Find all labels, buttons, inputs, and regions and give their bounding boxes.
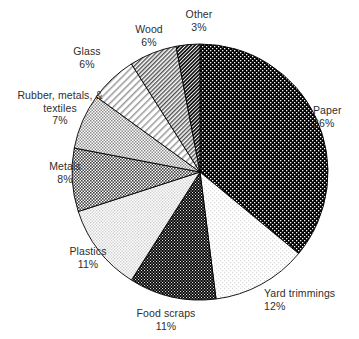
slice-label-metals: Metals 8% [41, 160, 89, 185]
slice-label-metals-pct: 8% [41, 173, 89, 186]
slice-label-rubber-metals-textiles: Rubber, metals, & textiles 7% [8, 89, 112, 127]
slice-label-paper: Paper 36% [313, 104, 342, 129]
slice-label-paper-name: Paper [313, 104, 342, 117]
slice-label-rubber-metals-textiles-name: Rubber, metals, & [8, 89, 112, 102]
slice-label-yard-trimmings-name: Yard trimmings [264, 287, 335, 300]
slice-label-metals-name: Metals [41, 160, 89, 173]
slice-label-food-scraps: Food scraps 11% [130, 307, 202, 332]
slice-label-plastics: Plastics 11% [63, 245, 113, 270]
slice-label-yard-trimmings: Yard trimmings 12% [264, 287, 335, 312]
slice-label-wood-name: Wood [126, 23, 172, 36]
slice-label-wood: Wood 6% [126, 23, 172, 48]
slice-label-plastics-pct: 11% [63, 258, 113, 271]
slice-label-rubber-metals-textiles-name2: textiles [8, 102, 112, 115]
slice-label-other: Other 3% [176, 8, 222, 33]
slice-label-food-scraps-name: Food scraps [130, 307, 202, 320]
pie-chart: Paper 36% Yard trimmings 12% Food scraps… [0, 0, 359, 339]
slice-label-glass: Glass 6% [64, 45, 110, 70]
slice-label-glass-pct: 6% [64, 58, 110, 71]
slice-label-other-pct: 3% [176, 21, 222, 34]
slice-label-food-scraps-pct: 11% [130, 320, 202, 333]
slice-label-plastics-name: Plastics [63, 245, 113, 258]
slice-label-rubber-metals-textiles-pct: 7% [8, 114, 112, 127]
slice-label-other-name: Other [176, 8, 222, 21]
slice-label-paper-pct: 36% [313, 117, 342, 130]
slice-label-wood-pct: 6% [126, 36, 172, 49]
slice-label-yard-trimmings-pct: 12% [264, 300, 335, 313]
slice-label-glass-name: Glass [64, 45, 110, 58]
